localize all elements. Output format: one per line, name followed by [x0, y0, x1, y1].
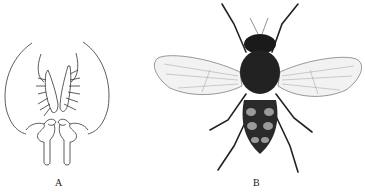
panel-label-b: B	[253, 178, 260, 188]
panel-b-fly-dorsal-view	[130, 0, 365, 192]
panel-a-genitalia-drawing	[0, 0, 130, 192]
genitalia-illustration	[0, 0, 130, 192]
fly-thorax	[240, 50, 280, 94]
fly-illustration	[130, 0, 365, 192]
panel-label-a: A	[55, 178, 62, 188]
